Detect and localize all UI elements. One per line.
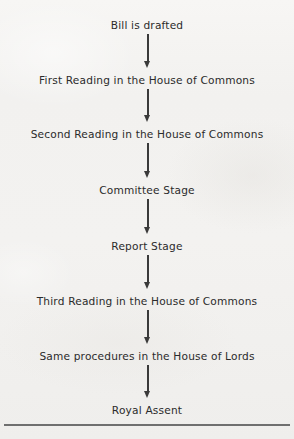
arrow-third-reading-to-lords	[142, 310, 154, 344]
flow-node-bill-is-drafted: Bill is drafted	[0, 20, 294, 31]
arrow-committee-to-report	[142, 199, 154, 234]
arrow-report-to-third-reading	[142, 255, 154, 289]
arrow-second-reading-to-committee	[142, 143, 154, 178]
flow-node-same-procedures-lords: Same procedures in the House of Lords	[0, 351, 294, 362]
flow-node-committee-stage: Committee Stage	[0, 185, 294, 196]
flow-node-royal-assent: Royal Assent	[0, 405, 294, 416]
flow-node-report-stage: Report Stage	[0, 241, 294, 252]
flow-node-second-reading-commons: Second Reading in the House of Commons	[0, 129, 294, 140]
page-divider-rule	[4, 424, 290, 426]
flow-node-third-reading-commons: Third Reading in the House of Commons	[0, 296, 294, 307]
arrow-drafted-to-first-reading	[142, 34, 154, 68]
arrow-lords-to-royal-assent	[142, 365, 154, 398]
flowchart-figure: Bill is drafted First Reading in the Hou…	[0, 0, 294, 439]
arrow-first-to-second-reading	[142, 89, 154, 122]
flow-node-first-reading-commons: First Reading in the House of Commons	[0, 75, 294, 86]
